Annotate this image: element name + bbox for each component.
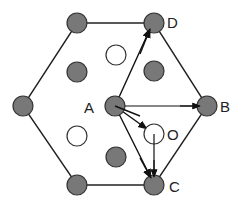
atom-inner-lower-center — [106, 147, 126, 167]
atom-C — [144, 175, 164, 195]
atom-inner-upper-left — [67, 62, 87, 82]
label-B: B — [220, 98, 230, 115]
label-A: A — [84, 99, 94, 116]
arrowhead-C — [140, 158, 151, 178]
open-atom-lower-left — [67, 126, 87, 146]
atom-top-left — [67, 13, 87, 33]
atom-D — [144, 13, 164, 33]
label-D: D — [167, 14, 178, 31]
atom-bottom-left — [67, 175, 87, 195]
filled-atoms — [13, 13, 217, 195]
label-C: C — [169, 178, 180, 195]
atom-left — [13, 96, 33, 116]
lattice-diagram: A B C D O — [0, 0, 244, 208]
arrowhead-D — [140, 29, 150, 54]
open-atom-upper-center — [106, 45, 126, 65]
label-O: O — [167, 126, 179, 143]
atom-inner-upper-right — [144, 61, 164, 81]
